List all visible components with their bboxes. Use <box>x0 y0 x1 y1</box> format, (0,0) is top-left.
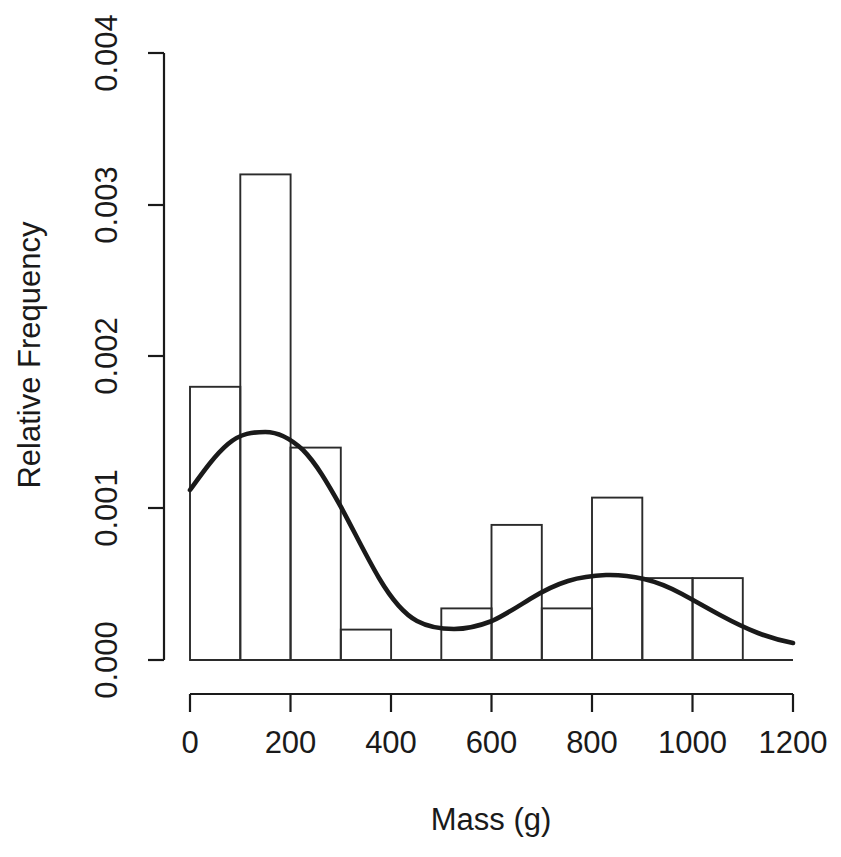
y-axis-title: Relative Frequency <box>12 221 47 489</box>
y-tick-label-4: 0.004 <box>89 14 124 92</box>
bar-100-200 <box>240 174 290 660</box>
histogram-chart: Relative Frequency 0.000 0.001 0.002 0.0… <box>0 0 841 857</box>
figure-panel: Relative Frequency 0.000 0.001 0.002 0.0… <box>0 0 841 857</box>
bar-0-100 <box>190 387 240 660</box>
bar-500-600 <box>441 608 491 660</box>
x-tick-label-600: 600 <box>466 725 518 760</box>
histogram-bars <box>190 174 793 660</box>
bar-900-1000 <box>642 578 692 660</box>
x-axis-title: Mass (g) <box>431 802 552 837</box>
x-axis-tick-labels: 0 200 400 600 800 1000 1200 <box>181 725 827 760</box>
x-tick-label-800: 800 <box>566 725 618 760</box>
x-tick-label-1000: 1000 <box>658 725 727 760</box>
x-tick-label-200: 200 <box>265 725 317 760</box>
bar-300-400 <box>341 630 391 660</box>
x-tick-label-1200: 1200 <box>759 725 828 760</box>
bar-200-300 <box>291 448 341 660</box>
y-axis-tick-labels: 0.000 0.001 0.002 0.003 0.004 <box>89 14 124 699</box>
x-axis <box>190 694 793 712</box>
y-tick-label-0: 0.000 <box>89 621 124 699</box>
bar-700-800 <box>542 608 592 660</box>
x-tick-label-400: 400 <box>365 725 417 760</box>
bar-1000-1100 <box>693 578 743 660</box>
y-tick-label-1: 0.001 <box>89 469 124 547</box>
y-tick-label-2: 0.002 <box>89 317 124 395</box>
y-axis <box>148 53 164 660</box>
x-tick-label-0: 0 <box>181 725 198 760</box>
y-tick-label-3: 0.003 <box>89 166 124 244</box>
bar-600-700 <box>492 525 542 660</box>
